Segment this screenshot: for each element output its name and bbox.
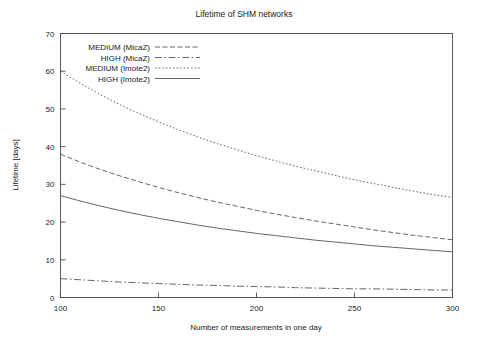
y-tick-label: 60 xyxy=(46,67,55,76)
x-tick-label: 100 xyxy=(54,304,68,313)
legend-label: HIGH (MicaZ) xyxy=(101,54,151,63)
chart-background xyxy=(0,0,488,353)
legend-label: HIGH (Imote2) xyxy=(98,75,150,84)
x-tick-label: 300 xyxy=(446,304,460,313)
legend-label: MEDIUM (MicaZ) xyxy=(88,43,150,52)
y-tick-label: 50 xyxy=(46,105,55,114)
y-tick-label: 40 xyxy=(46,143,55,152)
y-tick-label: 30 xyxy=(46,180,55,189)
chart-container: Lifetime of SHM networks 010203040506070… xyxy=(0,0,488,353)
y-tick-label: 70 xyxy=(46,30,55,39)
legend-label: MEDIUM (Imote2) xyxy=(86,64,151,73)
page-title: Lifetime of SHM networks xyxy=(196,9,293,19)
x-tick-label: 150 xyxy=(152,304,166,313)
y-tick-label: 20 xyxy=(46,218,55,227)
y-axis-label: Lifetime [days] xyxy=(11,139,20,191)
line-chart: Lifetime of SHM networks 010203040506070… xyxy=(0,0,488,353)
y-tick-label: 0 xyxy=(50,294,55,303)
x-axis-label: Number of measurements in one day xyxy=(190,323,322,332)
y-tick-label: 10 xyxy=(46,256,55,265)
x-tick-label: 200 xyxy=(250,304,264,313)
x-tick-label: 250 xyxy=(348,304,362,313)
